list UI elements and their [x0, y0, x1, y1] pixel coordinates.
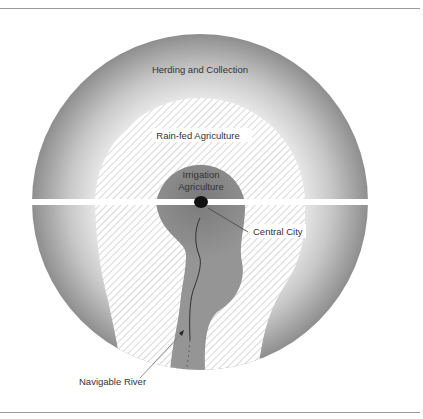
bottom-rule [0, 412, 420, 413]
label-navigable-river: Navigable River [79, 376, 146, 387]
land-use-diagram: Herding and Collection Rain-fed Agricult… [0, 0, 423, 419]
label-herding: Herding and Collection [152, 64, 248, 75]
label-irrigation-line1: Irrigation [183, 169, 220, 180]
central-city-marker [194, 196, 208, 208]
label-irrigation-line2: Agriculture [178, 181, 223, 192]
label-rainfed: Rain-fed Agriculture [156, 130, 239, 141]
label-central-city: Central City [253, 226, 303, 237]
